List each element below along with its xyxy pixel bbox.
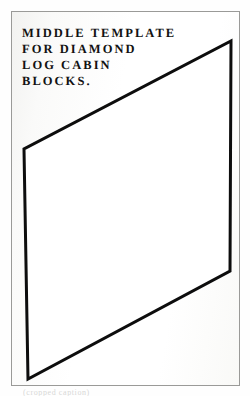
caption-line-2: FOR DIAMOND — [22, 41, 227, 57]
cropped-undertext: (cropped caption) — [23, 388, 227, 396]
caption-line-3: LOG CABIN — [22, 57, 227, 73]
caption-line-1: MIDDLE TEMPLATE — [22, 25, 227, 41]
caption-line-4: BLOCKS. — [22, 73, 227, 89]
page-canvas: MIDDLE TEMPLATE FOR DIAMOND LOG CABIN BL… — [0, 0, 250, 396]
caption-block: MIDDLE TEMPLATE FOR DIAMOND LOG CABIN BL… — [22, 25, 227, 89]
plate-frame: MIDDLE TEMPLATE FOR DIAMOND LOG CABIN BL… — [11, 11, 240, 386]
undertext-line: (cropped caption) — [23, 388, 227, 396]
parallelogram-outline — [24, 41, 231, 379]
